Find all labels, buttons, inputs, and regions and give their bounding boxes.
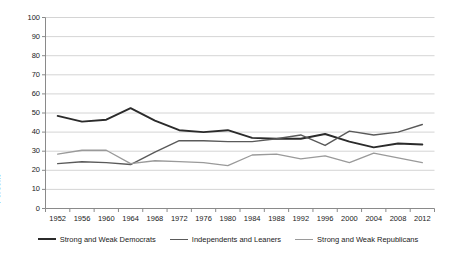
legend-swatch-icon <box>38 238 56 240</box>
chart-legend: Strong and Weak DemocratsIndependents an… <box>0 231 456 247</box>
chart-container: Percent 0102030405060708090100 195219561… <box>0 0 456 257</box>
legend-label: Strong and Weak Republicans <box>317 235 418 244</box>
legend-label: Strong and Weak Democrats <box>60 235 156 244</box>
legend-item-0[interactable]: Strong and Weak Democrats <box>38 235 156 244</box>
legend-swatch-icon <box>295 239 313 240</box>
series-line-1 <box>58 124 423 164</box>
gridlines <box>46 18 435 209</box>
plot-area <box>0 0 456 257</box>
axes <box>42 18 435 213</box>
legend-swatch-icon <box>170 239 188 240</box>
legend-label: Independents and Leaners <box>192 235 281 244</box>
legend-item-2[interactable]: Strong and Weak Republicans <box>295 235 418 244</box>
legend-item-1[interactable]: Independents and Leaners <box>170 235 281 244</box>
